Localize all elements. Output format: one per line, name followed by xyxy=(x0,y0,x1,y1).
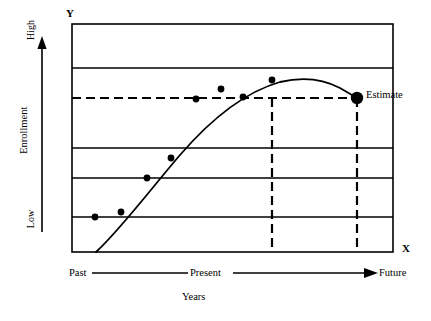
data-point xyxy=(269,77,276,84)
y-axis-title: Enrollment xyxy=(19,90,30,170)
data-point xyxy=(144,175,151,182)
x-axis-future-label: Future xyxy=(379,268,406,279)
y-axis-low-label: Low xyxy=(26,199,36,239)
data-point xyxy=(218,86,225,93)
x-axis-past-label: Past xyxy=(69,268,87,279)
data-point xyxy=(118,209,125,216)
estimate-point-marker xyxy=(351,92,363,104)
y-axis-name-label: Y xyxy=(66,8,74,19)
x-axis-title: Years xyxy=(182,292,205,303)
x-axis-name-label: X xyxy=(402,243,410,254)
data-point xyxy=(92,214,99,221)
data-point xyxy=(193,96,200,103)
data-point xyxy=(240,94,247,101)
data-point xyxy=(168,155,175,162)
y-axis-high-label: High xyxy=(26,10,36,50)
estimate-annotation-label: Estimate xyxy=(366,90,403,101)
enrollment-projection-chart: Y X Estimate Enrollment High Low Past Pr… xyxy=(0,0,431,321)
x-axis-present-label: Present xyxy=(190,268,221,279)
